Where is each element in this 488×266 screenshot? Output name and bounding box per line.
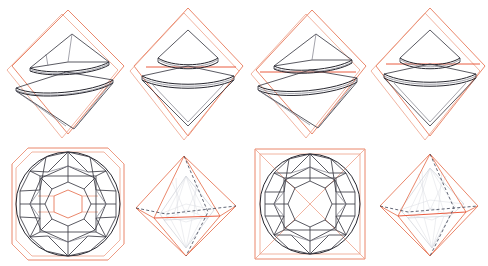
rough-outline-icon [7,10,124,138]
brilliant-facet-pattern [16,152,120,256]
panel-side-view-symmetric-right [368,4,488,140]
panel-8-canvas [374,150,486,260]
panel-perspective-octahedron-left [130,152,242,260]
panel-6-canvas [130,152,242,260]
panel-2-canvas [126,4,250,140]
stone-wireframe [142,30,234,126]
hidden-edges [136,156,236,256]
panel-top-view-octagonal-rough [10,146,126,262]
stone-wireframe [258,34,357,128]
panel-perspective-octahedron-right [374,150,486,260]
stone-wireframe [16,34,113,129]
panel-side-view-symmetric-left [126,4,250,140]
panel-top-view-square-rough [252,146,368,262]
ghost-stone-wireframe [160,176,214,248]
rough-outline-icon [251,10,366,138]
panel-side-view-asymmetric-left [6,4,130,140]
panel-side-view-asymmetric-right [248,4,372,140]
panel-5-canvas [10,146,126,262]
rough-wireframe-icon [136,156,236,256]
panel-1-canvas [6,4,130,140]
diamond-cut-geometry-figure [0,0,488,266]
panel-3-canvas [248,4,372,140]
stone-wireframe [384,30,476,126]
panel-7-canvas [252,146,368,262]
panel-4-canvas [368,4,488,140]
